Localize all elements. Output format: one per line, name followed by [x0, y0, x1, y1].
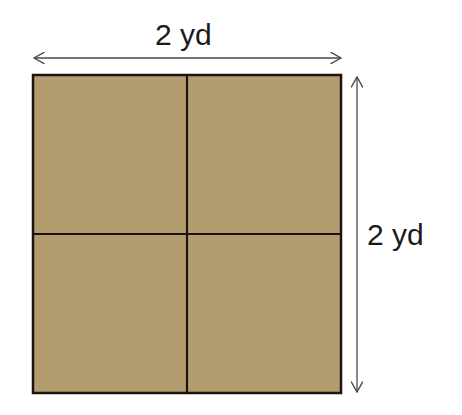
width-label: 2 yd	[155, 20, 212, 50]
square-diagram	[0, 0, 462, 415]
height-label: 2 yd	[367, 220, 424, 250]
